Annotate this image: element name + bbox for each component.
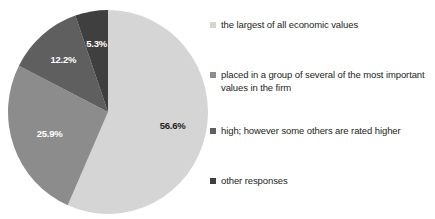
legend-swatch-icon-2 xyxy=(210,128,216,134)
legend-label-2: high; however some others are rated high… xyxy=(221,125,401,138)
legend-swatch-icon-1 xyxy=(210,72,216,78)
pie-slice-label: 5.3% xyxy=(86,38,108,49)
legend-item-largest-of-all-economic-values[interactable]: the largest of all economic values xyxy=(210,19,435,32)
pie-svg: 56.6%25.9%12.2%5.3% xyxy=(8,10,208,214)
legend-label-3: other responses xyxy=(221,175,288,188)
pie-slice-label: 12.2% xyxy=(50,54,77,65)
legend-item-placed-in-a-group[interactable]: placed in a group of several of the most… xyxy=(210,69,435,94)
legend-label-1: placed in a group of several of the most… xyxy=(221,69,435,94)
legend-item-high-however-some-others[interactable]: high; however some others are rated high… xyxy=(210,125,435,138)
legend: the largest of all economic values place… xyxy=(210,0,435,219)
legend-swatch-icon-3 xyxy=(210,178,216,184)
legend-item-other-responses[interactable]: other responses xyxy=(210,175,435,188)
pie-slice-group xyxy=(8,10,208,214)
pie-plot-area: 56.6%25.9%12.2%5.3% xyxy=(8,10,208,214)
pie-slice-label: 56.6% xyxy=(160,120,187,131)
legend-label-0: the largest of all economic values xyxy=(221,19,358,32)
pie-chart-figure: 56.6%25.9%12.2%5.3% the largest of all e… xyxy=(0,0,435,219)
pie-slice-label: 25.9% xyxy=(37,128,64,139)
legend-swatch-icon-0 xyxy=(210,22,216,28)
